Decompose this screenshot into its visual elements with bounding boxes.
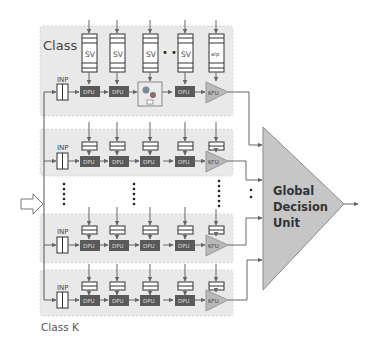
svg-text:Global: Global (273, 184, 314, 198)
inp-label: INP (57, 76, 69, 84)
svg-text:INP: INP (57, 228, 69, 236)
inp-block (57, 153, 68, 169)
svg-text:SV: SV (146, 50, 157, 59)
svg-text:INP: INP (57, 144, 69, 152)
svg-text:DPU: DPU (143, 243, 155, 249)
svg-text:DPU: DPU (112, 298, 124, 304)
dpu-block: DPU (80, 86, 100, 97)
svg-text:DPU: DPU (83, 89, 95, 95)
kfu-to-gdu-connectors (228, 92, 262, 300)
image-processing-icon (138, 82, 162, 106)
svg-text:DPU: DPU (178, 298, 190, 304)
input-arrow-icon (21, 194, 43, 214)
inp-block (57, 237, 68, 253)
class-k-box (40, 270, 233, 316)
svg-text:Unit: Unit (273, 216, 300, 230)
vertical-ellipsis (63, 180, 253, 208)
global-decision-unit: Global Decision Unit (263, 127, 344, 290)
svg-text:KFU: KFU (208, 159, 219, 165)
svg-text:DPU: DPU (178, 159, 190, 165)
class-k-label: Class K (41, 321, 80, 333)
svg-text:DPU: DPU (83, 159, 95, 165)
inp-block (57, 292, 68, 308)
svg-text:DPU: DPU (178, 89, 190, 95)
svg-text:KFU: KFU (208, 298, 219, 304)
svg-text:DPU: DPU (143, 159, 155, 165)
svg-text:DPU: DPU (112, 243, 124, 249)
svg-text:SV: SV (181, 50, 192, 59)
class-2-box (40, 214, 233, 263)
svg-text:DPU: DPU (178, 243, 190, 249)
svg-text:DPU: DPU (83, 243, 95, 249)
class-1-box (40, 129, 233, 176)
ellipsis-dots: • • (162, 47, 177, 58)
svg-text:INP: INP (57, 284, 69, 292)
inp-block (57, 84, 68, 100)
svg-text:DPU: DPU (143, 298, 155, 304)
svg-text:SV: SV (85, 50, 96, 59)
svg-text:SV: SV (113, 50, 124, 59)
classification-architecture-diagram: Class 0 INP SV SV SV • • SV (0, 0, 375, 343)
svg-text:alp: alp (211, 51, 220, 58)
dpu-block: DPU (109, 86, 129, 97)
svg-text:DPU: DPU (83, 298, 95, 304)
svg-text:DPU: DPU (112, 89, 124, 95)
svg-text:KFU: KFU (208, 90, 219, 96)
svg-text:Decision: Decision (273, 200, 328, 214)
dpu-block: DPU (175, 86, 195, 97)
svg-text:DPU: DPU (112, 159, 124, 165)
svg-text:KFU: KFU (208, 243, 219, 249)
